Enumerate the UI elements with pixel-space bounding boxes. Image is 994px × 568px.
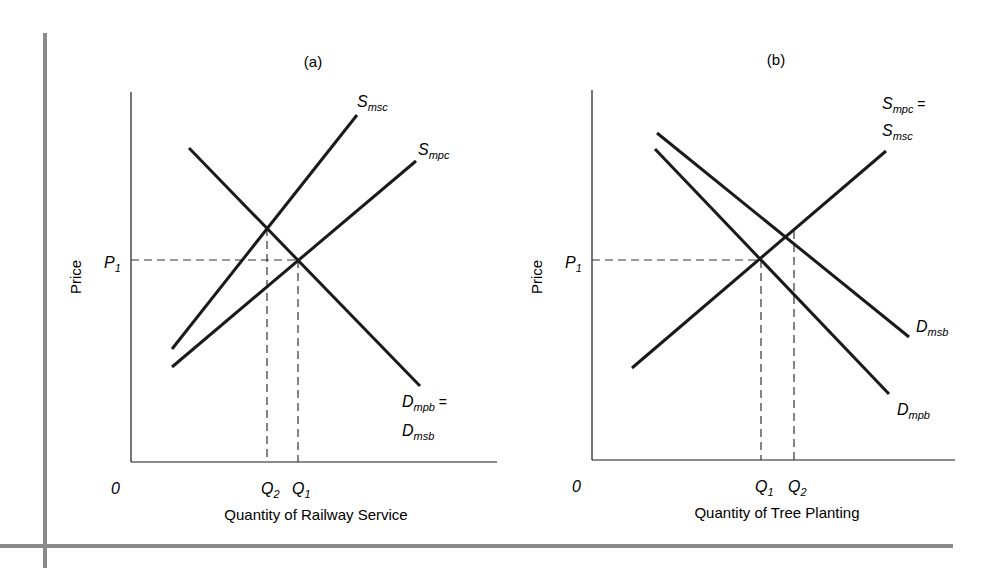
panel-b-dmsb-label: Dmsb: [916, 318, 948, 338]
panel-b-title: (b): [767, 51, 785, 68]
panel-a: (a) Price P1 Smsc Smpc Dmpb = Dmsb 0 Q2 …: [67, 53, 497, 523]
panel-a-smpc-label: Smpc: [418, 141, 450, 161]
panel-a-origin-label: 0: [111, 480, 120, 497]
bottom-rule: [0, 544, 953, 548]
panel-b-q1-label: Q1: [755, 478, 774, 498]
panel-a-dmpb-label: Dmpb =: [402, 393, 447, 413]
panel-b-q2-label: Q2: [788, 478, 807, 498]
panel-a-smpc-curve: [172, 161, 416, 367]
panel-a-smsc-curve: [172, 115, 357, 349]
panel-a-title: (a): [304, 53, 322, 70]
panel-b-origin-label: 0: [572, 478, 581, 495]
figure-canvas: (a) Price P1 Smsc Smpc Dmpb = Dmsb 0 Q2 …: [0, 0, 994, 568]
panel-a-p1-label: P1: [104, 254, 121, 274]
panel-b-p1-label: P1: [565, 254, 582, 274]
panel-b-ylabel: Price: [528, 260, 545, 294]
panel-a-dmsb-label: Dmsb: [402, 422, 434, 442]
panel-a-xlabel: Quantity of Railway Service: [224, 506, 407, 523]
panel-b-dmpb-curve: [655, 149, 889, 394]
panel-a-q2-label: Q2: [261, 480, 280, 500]
panel-a-smsc-label: Smsc: [357, 93, 388, 113]
left-margin-rule: [43, 33, 47, 568]
panel-b: (b) Price P1 Smpc = Smsc Dmsb Dmpb 0 Q1 …: [528, 51, 955, 521]
panel-b-dmpb-label: Dmpb: [897, 401, 930, 421]
panel-a-ylabel: Price: [67, 260, 84, 294]
panel-b-smpc-label: Smpc =: [882, 95, 926, 115]
panel-b-smsc-label: Smsc: [882, 122, 913, 142]
panel-b-xlabel: Quantity of Tree Planting: [694, 504, 859, 521]
panel-a-q1-label: Q1: [292, 480, 311, 500]
